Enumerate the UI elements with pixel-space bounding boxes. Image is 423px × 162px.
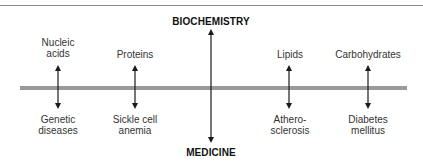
label-line: Diabetes <box>348 114 387 125</box>
label-line: Genetic <box>38 114 77 125</box>
label-line: Nucleic <box>42 37 75 48</box>
label-line: anemia <box>113 125 157 136</box>
label-line: Carbohydrates <box>335 49 401 60</box>
medicine-label-sickle-cell-anemia: Sickle cell anemia <box>113 114 157 136</box>
label-line: acids <box>42 48 75 59</box>
medicine-label-diabetes-mellitus: Diabetes mellitus <box>348 114 387 136</box>
label-line: diseases <box>38 125 77 136</box>
biochem-label-lipids: Lipids <box>277 49 303 60</box>
medicine-label-genetic-diseases: Genetic diseases <box>38 114 77 136</box>
label-line: Sickle cell <box>113 114 157 125</box>
label-line: Lipids <box>277 49 303 60</box>
biochem-label-carbohydrates: Carbohydrates <box>335 49 401 60</box>
label-line: mellitus <box>348 125 387 136</box>
label-line: Athero- <box>271 114 310 125</box>
label-line: sclerosis <box>271 125 310 136</box>
biochem-label-nucleic-acids: Nucleic acids <box>42 37 75 59</box>
label-line: Proteins <box>117 49 154 60</box>
biochem-label-proteins: Proteins <box>117 49 154 60</box>
medicine-label-atherosclerosis: Athero- sclerosis <box>271 114 310 136</box>
arrows-layer <box>0 0 423 162</box>
